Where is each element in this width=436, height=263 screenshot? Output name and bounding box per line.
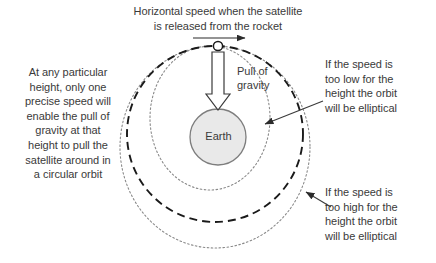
note-speed-too-high: If the speed is too high for the height …	[325, 185, 433, 243]
diagram-title: Horizontal speed when the satellite is r…	[98, 4, 338, 33]
label-pull-of-gravity: Pull of gravity	[237, 64, 297, 93]
pointer-line-too-low	[265, 101, 323, 124]
satellite-marker-icon	[213, 41, 222, 50]
gravity-block-arrow-icon	[206, 52, 230, 110]
orbit-diagram: Horizontal speed when the satellite is r…	[0, 0, 436, 263]
label-earth: Earth	[190, 130, 247, 142]
note-speed-too-low: If the speed is too low for the height t…	[325, 57, 433, 115]
note-circular-orbit: At any particular height, only one preci…	[4, 65, 132, 182]
